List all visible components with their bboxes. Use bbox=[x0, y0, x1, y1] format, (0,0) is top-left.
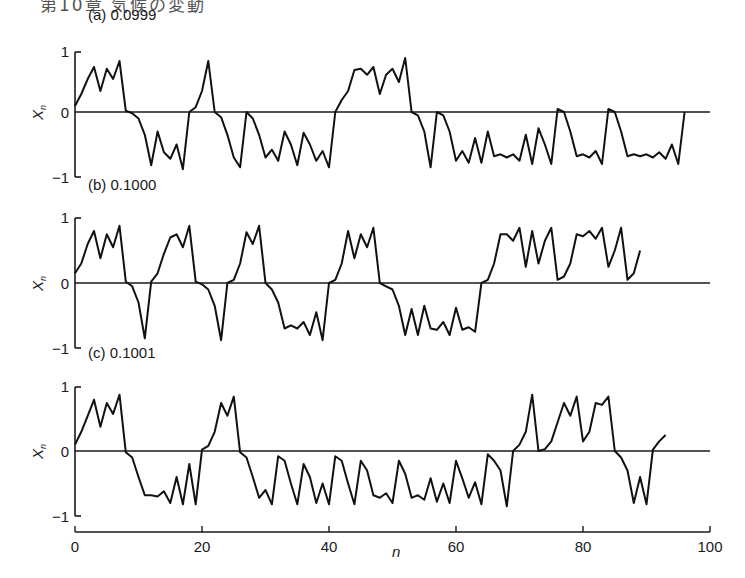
panel-a: (a) 0.099910−1Xn bbox=[29, 6, 710, 186]
panel-b: (b) 0.100010−1Xn bbox=[29, 176, 710, 357]
x-tick-label: 20 bbox=[194, 538, 211, 555]
y-tick-label: 1 bbox=[61, 43, 69, 60]
y-tick-label: −1 bbox=[52, 508, 69, 525]
x-tick-label: 100 bbox=[697, 538, 722, 555]
y-axis-label: Xn bbox=[29, 276, 48, 292]
panel-title: (a) 0.0999 bbox=[88, 6, 156, 23]
y-axis-label: Xn bbox=[29, 444, 48, 460]
y-axis-label: Xn bbox=[29, 105, 48, 121]
x-tick-label: 80 bbox=[575, 538, 592, 555]
y-tick-label: 0 bbox=[61, 104, 69, 121]
x-tick-label: 60 bbox=[448, 538, 465, 555]
y-tick-label: −1 bbox=[52, 340, 69, 357]
y-tick-label: 1 bbox=[61, 378, 69, 395]
y-tick-label: −1 bbox=[52, 169, 69, 186]
x-tick-label: 0 bbox=[71, 538, 79, 555]
figure: (a) 0.099910−1Xn(b) 0.100010−1Xn(c) 0.10… bbox=[0, 0, 745, 578]
y-tick-label: 1 bbox=[61, 209, 69, 226]
panel-title: (c) 0.1001 bbox=[88, 344, 156, 361]
x-tick-label: 40 bbox=[321, 538, 338, 555]
y-tick-label: 0 bbox=[61, 443, 69, 460]
panel-c: (c) 0.100110−1Xn020406080100n bbox=[29, 344, 723, 560]
panel-title: (b) 0.1000 bbox=[88, 176, 156, 193]
x-axis-label: n bbox=[392, 543, 400, 560]
series-line bbox=[75, 58, 685, 169]
y-tick-label: 0 bbox=[61, 275, 69, 292]
